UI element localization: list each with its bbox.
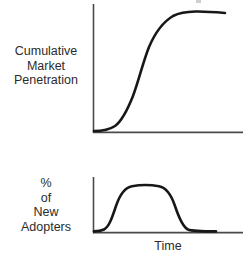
chart-cumulative-svg: [85, 0, 250, 140]
new-adopters-curve: [94, 185, 216, 231]
chart-adopters-svg: [85, 172, 250, 238]
chart-cumulative-market-penetration: [85, 0, 250, 140]
cumulative-curve: [94, 11, 225, 131]
y-axis-label-cumulative-market-penetration: Cumulative Market Penetration: [0, 44, 92, 88]
chart-percent-new-adopters: [85, 172, 250, 238]
x-axis-label-time: Time: [93, 239, 243, 254]
y-axis-label-percent-new-adopters: % of New Adopters: [0, 176, 92, 234]
figure-canvas: Cumulative Market Penetration % of New A…: [0, 0, 250, 263]
